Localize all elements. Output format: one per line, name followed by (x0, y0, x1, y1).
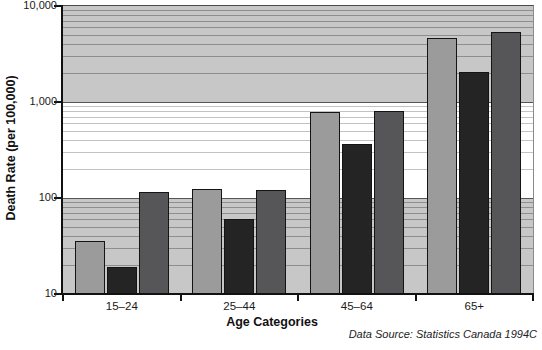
black-series-bar (224, 219, 254, 294)
x-axis-line (61, 293, 534, 295)
black-series-bar (342, 144, 372, 295)
light-gray-series-bar (310, 112, 340, 294)
black-series-bar (459, 72, 489, 294)
x-axis-tick (62, 294, 64, 301)
minor-gridline (63, 10, 533, 11)
minor-gridline (63, 21, 533, 22)
dark-gray-series-bar (256, 190, 286, 294)
dark-gray-series-bar (374, 111, 404, 294)
minor-gridline (63, 27, 533, 28)
x-axis-tick (532, 294, 534, 301)
y-tick-label: 10,000 (0, 0, 57, 12)
minor-gridline (63, 15, 533, 16)
minor-gridline (63, 35, 533, 36)
y-tick-label: 100 (0, 190, 57, 204)
x-axis-tick (415, 294, 417, 301)
light-gray-series-bar (427, 38, 457, 294)
y-axis-line (61, 5, 63, 295)
x-category-label: 65+ (429, 300, 519, 312)
minor-gridline (63, 44, 533, 45)
minor-gridline (63, 56, 533, 57)
x-category-label: 15–24 (77, 300, 167, 312)
light-gray-series-bar (192, 189, 222, 294)
death-rate-bar-chart: Death Rate (per 100,000) 10,0001,0001001… (0, 0, 542, 350)
dark-gray-series-bar (491, 32, 521, 294)
x-axis-title: Age Categories (192, 315, 352, 329)
x-axis-tick (297, 294, 299, 301)
plot-area (63, 5, 534, 294)
y-tick-label: 10 (0, 286, 57, 300)
data-source-note: Data Source: Statistics Canada 1994C (349, 328, 537, 340)
x-category-label: 25–44 (194, 300, 284, 312)
x-category-label: 45–64 (312, 300, 402, 312)
x-axis-tick (180, 294, 182, 301)
y-tick-label: 1,000 (0, 94, 57, 108)
light-gray-series-bar (75, 241, 105, 294)
dark-gray-series-bar (139, 192, 169, 294)
black-series-bar (107, 267, 137, 294)
